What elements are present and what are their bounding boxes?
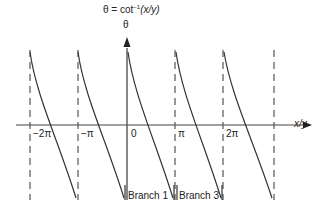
tick-label-m2pi: −2π xyxy=(33,129,51,139)
title-text: θ = cot xyxy=(103,4,133,15)
tick-label-pi: π xyxy=(178,129,185,139)
branch-3-label: Branch 3 xyxy=(179,191,219,201)
tick-label-mpi: −π xyxy=(81,129,94,139)
tick-label-2pi: 2π xyxy=(226,129,238,139)
y-axis-label: θ xyxy=(123,20,129,30)
branch-1-label: Branch 1 xyxy=(128,191,168,201)
x-axis-label: x/y xyxy=(294,119,307,129)
title-argument: (x/y) xyxy=(140,4,159,15)
chart-title: θ = cot−1(x/y) xyxy=(103,4,160,15)
y-axis-arrow-icon xyxy=(124,37,131,47)
plot-canvas xyxy=(0,0,323,211)
tick-label-0: 0 xyxy=(131,129,137,139)
